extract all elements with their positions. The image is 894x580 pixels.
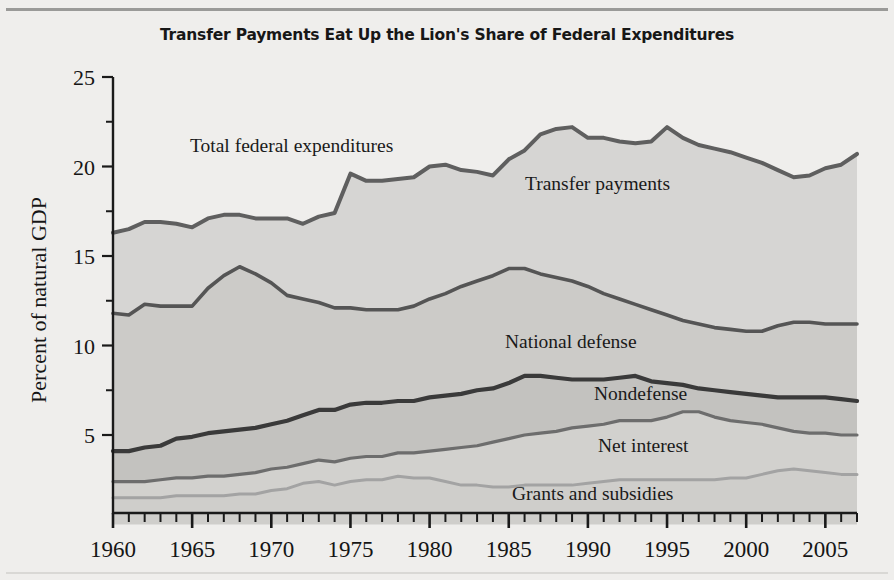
stacked-area-bands [113,127,857,524]
y-tick-label: 15 [73,244,95,269]
series-label-total: Total federal expenditures [190,135,393,156]
series-label-grants: Grants and subsidies [512,483,673,504]
chart-plot: 5101520251960196519701975198019851990199… [0,0,894,580]
y-tick-label: 25 [73,65,95,90]
x-tick-label: 2005 [802,537,848,562]
y-tick-label: 5 [84,423,95,448]
figure-container: Transfer Payments Eat Up the Lion's Shar… [0,0,894,580]
x-tick-label: 1975 [327,537,373,562]
x-tick-label: 1995 [644,537,690,562]
y-tick-label: 20 [73,155,95,180]
series-label-defense: National defense [505,331,637,352]
x-tick-label: 1970 [248,537,294,562]
series-label-interest: Net interest [598,435,689,456]
series-label-transfer: Transfer payments [525,173,670,194]
x-tick-label: 1965 [169,537,215,562]
x-tick-label: 1985 [486,537,532,562]
series-label-nondefense: Nondefense [594,383,687,404]
x-tick-label: 2000 [723,537,769,562]
y-axis-label: Percent of natural GDP [26,197,51,403]
x-tick-label: 1980 [407,537,453,562]
x-tick-label: 1990 [565,537,611,562]
y-tick-label: 10 [73,334,95,359]
x-tick-label: 1960 [90,537,136,562]
